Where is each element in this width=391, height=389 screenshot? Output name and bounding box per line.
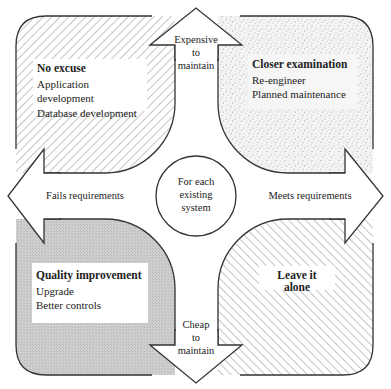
center-label: For each existing system — [161, 175, 231, 214]
quadrant-title: Quality improvement — [36, 269, 144, 281]
center-label-line: system — [161, 201, 231, 214]
quadrant-bottom-left-label: Quality improvement Upgrade Better contr… — [32, 263, 148, 323]
quadrant-diagram: Expensive to maintain Cheap to maintain … — [0, 0, 391, 389]
arrow-up-label-line: Expensive — [168, 33, 224, 46]
quadrant-item: Re-engineer — [252, 73, 354, 87]
quadrant-top-left-label: No excuse Application development Databa… — [33, 59, 147, 111]
quadrant-bottom-right-shape — [218, 219, 373, 375]
arrow-down-label: Cheap to maintain — [168, 318, 224, 357]
quadrant-title: Leave it alone — [263, 269, 331, 293]
center-label-line: For each — [161, 175, 231, 188]
arrow-down-label-line: Cheap — [168, 318, 224, 331]
quadrant-top-right-label: Closer examination Re-engineer Planned m… — [248, 55, 358, 109]
quadrant-title: Closer examination — [252, 58, 354, 70]
arrow-down-label-line: maintain — [168, 344, 224, 357]
quadrant-bottom-right-label: Leave it alone — [259, 266, 335, 290]
arrow-up-label-line: to — [168, 46, 224, 59]
quadrant-item: Better controls — [36, 298, 144, 312]
quadrant-item: Planned maintenance — [252, 87, 354, 101]
arrow-down-label-line: to — [168, 331, 224, 344]
quadrant-title: No excuse — [37, 62, 143, 74]
arrow-up-label-line: maintain — [168, 59, 224, 72]
arrow-right-label: Meets requirements — [255, 189, 365, 202]
center-label-line: existing — [161, 188, 231, 201]
quadrant-item: Database development — [37, 106, 143, 120]
arrow-up-label: Expensive to maintain — [168, 33, 224, 72]
quadrant-item: Upgrade — [36, 284, 144, 298]
arrow-left-label: Fails requirements — [30, 189, 140, 202]
quadrant-item: Application development — [37, 77, 143, 106]
